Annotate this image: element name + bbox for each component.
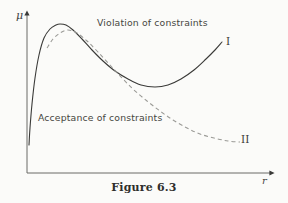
region-label-violation: Violation of constraints: [97, 18, 208, 27]
curve-label-ii: II: [241, 134, 249, 145]
curve-label-i: I: [226, 36, 230, 47]
y-axis-label: μ: [16, 10, 23, 21]
region-label-acceptance: Acceptance of constraints: [38, 113, 162, 122]
figure-page: μ r Violation of constraints Acceptance …: [0, 0, 288, 203]
figure-canvas: [0, 0, 288, 203]
curve-i-solid: [29, 24, 222, 145]
figure-caption: Figure 6.3: [0, 181, 288, 194]
